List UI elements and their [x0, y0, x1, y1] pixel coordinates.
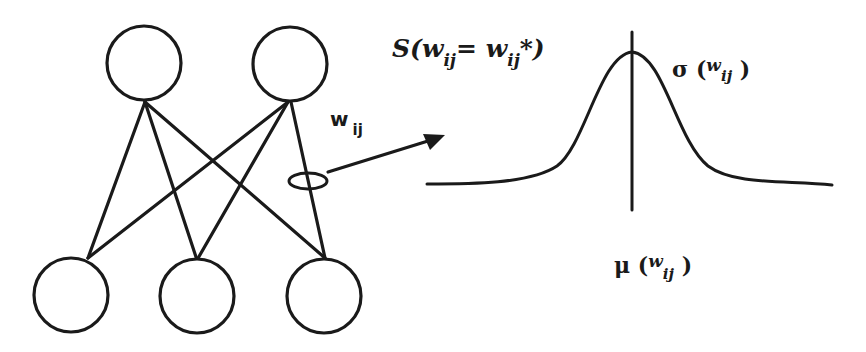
network-node-top-1 — [107, 26, 181, 100]
network-node-top-2 — [253, 27, 327, 101]
mu-label: μ (wij ) — [614, 252, 692, 278]
network-node-bottom-1 — [34, 258, 108, 332]
network-node-bottom-2 — [160, 259, 234, 333]
network-node-bottom-3 — [287, 259, 361, 333]
sigma-label: σ (wij ) — [672, 56, 750, 82]
gaussian-curve — [427, 52, 832, 185]
connection-line — [197, 102, 288, 260]
s-function-label: S(wij= wij*) — [392, 34, 545, 63]
arrow-line — [328, 141, 428, 172]
weight-label: wij — [330, 107, 363, 131]
